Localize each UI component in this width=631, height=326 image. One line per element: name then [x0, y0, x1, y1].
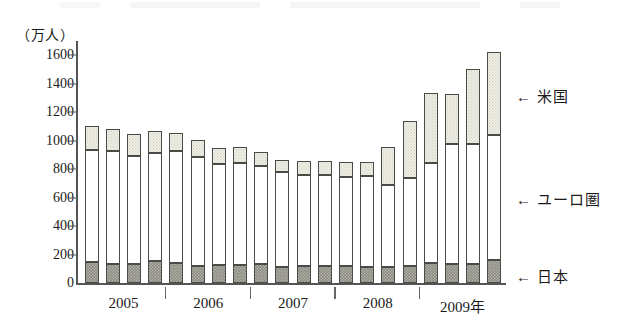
bar-2007Q3: [297, 41, 311, 283]
bar-2009Q3: [466, 41, 480, 283]
y-tick-mark-200: [69, 254, 76, 255]
bar-2005Q4: [148, 41, 162, 283]
bar-2005Q2: [106, 41, 120, 283]
bar-segment-eurozone: [85, 150, 99, 262]
bar-segment-eurozone: [148, 153, 162, 261]
bar-2005Q1: [85, 41, 99, 283]
bar-segment-japan: [254, 264, 268, 283]
bar-segment-eurozone: [487, 135, 501, 260]
bar-segment-eurozone: [381, 185, 395, 267]
bar-segment-usa: [233, 147, 247, 163]
bar-segment-japan: [127, 264, 141, 283]
bar-segment-eurozone: [318, 175, 332, 266]
bar-segment-japan: [297, 266, 311, 283]
bar-2005Q3: [127, 41, 141, 283]
scan-artifact-strip: [60, 2, 560, 8]
bar-segment-japan: [148, 261, 162, 283]
bar-2007Q2: [275, 41, 289, 283]
bar-segment-usa: [424, 93, 438, 163]
x-group-label-2009年: 2009年: [440, 295, 485, 316]
bar-segment-japan: [424, 263, 438, 283]
bar-2008Q3: [381, 41, 395, 283]
bar-segment-japan: [318, 266, 332, 283]
bar-segment-usa: [212, 148, 226, 164]
x-group-label-2007: 2007: [278, 295, 308, 312]
bar-segment-usa: [318, 161, 332, 176]
bar-segment-usa: [275, 160, 289, 172]
bar-2006Q2: [191, 41, 205, 283]
bar-segment-japan: [106, 264, 120, 283]
bar-2007Q4: [318, 41, 332, 283]
y-axis-line: [76, 41, 78, 284]
bar-2009Q2: [445, 41, 459, 283]
legend-eurozone-label: ユーロ圏: [537, 192, 601, 208]
bar-segment-eurozone: [466, 144, 480, 264]
bar-segment-japan: [466, 264, 480, 283]
bar-segment-usa: [381, 147, 395, 185]
bar-segment-eurozone: [339, 177, 353, 266]
bar-segment-japan: [191, 266, 205, 283]
bar-2008Q1: [339, 41, 353, 283]
bar-2009Q4: [487, 41, 501, 283]
x-group-separator-2006: [165, 287, 166, 299]
legend-usa-label: 米国: [537, 89, 569, 105]
legend-japan: ← 日本: [516, 265, 569, 286]
y-tick-mark-800: [69, 169, 76, 170]
chart-figure: （万人） 02004006008001000120014001600 20052…: [0, 0, 631, 326]
x-group-separator-2007: [250, 287, 251, 299]
bar-2009Q1: [424, 41, 438, 283]
bar-segment-eurozone: [212, 164, 226, 264]
x-group-label-2005: 2005: [108, 295, 138, 312]
bar-segment-japan: [339, 266, 353, 283]
y-axis-labels: 02004006008001000120014001600: [12, 0, 74, 326]
legend-arrow-icon: ←: [516, 89, 537, 105]
bar-segment-usa: [191, 140, 205, 157]
bar-segment-japan: [275, 267, 289, 283]
bar-segment-eurozone: [297, 175, 311, 266]
bar-segment-eurozone: [275, 172, 289, 267]
bar-segment-japan: [381, 267, 395, 283]
bar-segment-japan: [445, 264, 459, 283]
bar-segment-eurozone: [191, 157, 205, 266]
x-group-separator-2008: [334, 287, 335, 299]
x-group-separator-2009年: [419, 287, 420, 299]
bar-segment-japan: [85, 262, 99, 283]
x-axis-line: [76, 283, 506, 285]
bar-segment-usa: [148, 131, 162, 152]
y-tick-mark-600: [69, 197, 76, 198]
bar-2006Q3: [212, 41, 226, 283]
bar-segment-japan: [403, 266, 417, 283]
y-tick-mark-1600: [69, 55, 76, 56]
bar-2008Q2: [360, 41, 374, 283]
legend-eurozone: ← ユーロ圏: [516, 188, 601, 209]
bar-segment-usa: [254, 152, 268, 166]
bar-segment-eurozone: [169, 151, 183, 263]
bar-2007Q1: [254, 41, 268, 283]
bar-segment-eurozone: [127, 156, 141, 264]
bar-2008Q4: [403, 41, 417, 283]
bar-segment-eurozone: [254, 166, 268, 264]
bar-2006Q4: [233, 41, 247, 283]
y-tick-mark-1200: [69, 112, 76, 113]
bar-segment-usa: [487, 52, 501, 135]
bar-segment-eurozone: [360, 176, 374, 267]
legend-arrow-icon: ←: [516, 269, 537, 285]
bar-segment-usa: [169, 133, 183, 152]
bar-segment-eurozone: [106, 151, 120, 264]
y-tick-label-0: 0: [67, 275, 74, 291]
bar-segment-usa: [360, 162, 374, 176]
bar-segment-usa: [297, 161, 311, 175]
bar-segment-eurozone: [403, 178, 417, 266]
legend-japan-label: 日本: [537, 269, 569, 285]
legend-usa: ← 米国: [516, 85, 569, 106]
bar-segment-japan: [233, 265, 247, 284]
bar-segment-japan: [169, 263, 183, 283]
bar-segment-usa: [403, 121, 417, 178]
bar-segment-eurozone: [233, 163, 247, 265]
bar-segment-eurozone: [424, 163, 438, 263]
legend-arrow-icon: ←: [516, 192, 537, 208]
bar-segment-usa: [445, 94, 459, 144]
bar-segment-usa: [85, 126, 99, 149]
bar-segment-usa: [106, 129, 120, 150]
bar-segment-usa: [466, 69, 480, 143]
